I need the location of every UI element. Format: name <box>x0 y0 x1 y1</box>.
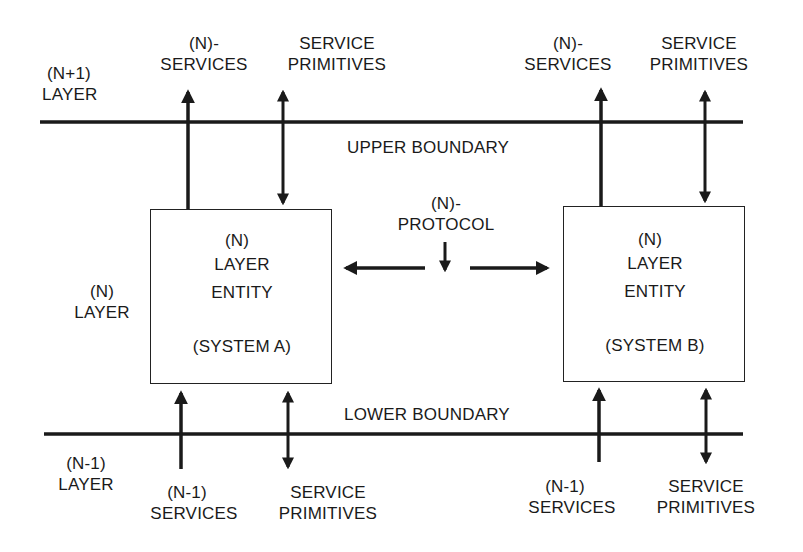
label-line: PROTOCOL <box>382 214 510 235</box>
system-a-lower-service-primitives-label: SERVICE PRIMITIVES <box>267 482 389 524</box>
label-line: PRIMITIVES <box>267 503 389 524</box>
n-layer-label: (N) LAYER <box>64 281 140 323</box>
label-line: (N) <box>554 229 746 250</box>
osi-layer-diagram: (N+1) LAYER (N) LAYER (N-1) LAYER UPPER … <box>0 0 803 552</box>
label-line: LAYER <box>64 302 140 323</box>
label-line: ENTITY <box>564 278 746 306</box>
n-plus-1-layer-label: (N+1) LAYER <box>42 63 98 105</box>
label-line: PRIMITIVES <box>638 54 760 75</box>
label-line: (N)- <box>148 33 260 54</box>
label-line: SERVICE <box>267 482 389 503</box>
n-minus-1-layer-label: (N-1) LAYER <box>48 453 124 495</box>
label-line: SERVICES <box>516 497 628 518</box>
lower-boundary-label: LOWER BOUNDARY <box>344 404 510 425</box>
label-line: (N)- <box>382 193 510 214</box>
label-line: SERVICE <box>645 476 767 497</box>
label-line: SERVICE <box>276 33 398 54</box>
label-line: (N) <box>141 230 333 251</box>
system-b-name-label: (SYSTEM B) <box>564 335 746 356</box>
system-a-entity-box: (N) LAYER ENTITY (SYSTEM A) <box>150 209 332 384</box>
label-line: SERVICES <box>148 54 260 75</box>
label-line: PRIMITIVES <box>645 497 767 518</box>
system-a-name-label: (SYSTEM A) <box>151 336 333 357</box>
upper-boundary-label: UPPER BOUNDARY <box>347 137 509 158</box>
label-line: LAYER <box>151 251 333 279</box>
system-a-n-services-label: (N)- SERVICES <box>148 33 260 75</box>
system-a-service-primitives-label: SERVICE PRIMITIVES <box>276 33 398 75</box>
label-line: SERVICES <box>138 503 250 524</box>
label-line: (N+1) <box>42 63 98 84</box>
label-line: PRIMITIVES <box>276 54 398 75</box>
label-line: ENTITY <box>151 279 333 307</box>
label-line: LAYER <box>42 84 98 105</box>
label-line: (N-1) <box>502 476 628 497</box>
system-b-n-services-label: (N)- SERVICES <box>512 33 624 75</box>
label-line: (N)- <box>512 33 624 54</box>
system-b-entity-box: (N) LAYER ENTITY (SYSTEM B) <box>563 206 745 382</box>
system-b-lower-service-primitives-label: SERVICE PRIMITIVES <box>645 476 767 518</box>
system-b-n-minus-1-services-label: (N-1) SERVICES <box>516 476 628 518</box>
label-line: (N-1) <box>124 482 250 503</box>
protocol-label: (N)- PROTOCOL <box>382 193 510 235</box>
system-a-entity-label: (N) LAYER ENTITY <box>151 230 333 307</box>
system-b-entity-label: (N) LAYER ENTITY <box>564 229 746 306</box>
label-line: SERVICES <box>512 54 624 75</box>
label-line: (N) <box>64 281 140 302</box>
label-line: LAYER <box>564 250 746 278</box>
label-line: SERVICE <box>638 33 760 54</box>
label-line: (N-1) <box>48 453 124 474</box>
system-a-n-minus-1-services-label: (N-1) SERVICES <box>138 482 250 524</box>
system-b-service-primitives-label: SERVICE PRIMITIVES <box>638 33 760 75</box>
label-line: LAYER <box>48 474 124 495</box>
